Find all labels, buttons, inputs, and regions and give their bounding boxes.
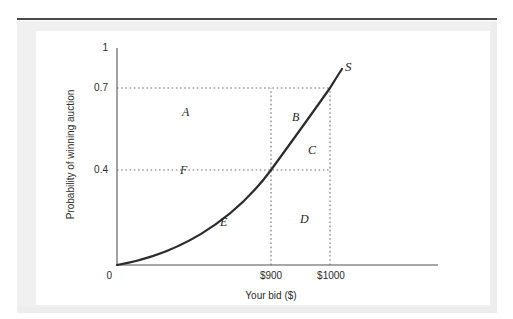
x-axis-title: Your bid ($) xyxy=(191,290,351,301)
region-label-b: B xyxy=(292,110,299,125)
top-rule-divider xyxy=(17,18,497,20)
y-tick-label-0-4: 0.4 xyxy=(82,164,108,175)
region-label-f: F xyxy=(180,163,187,178)
figure-panel: 1 0.7 0.4 0 $900 $1000 Your bid ($) Prob… xyxy=(36,31,490,305)
chart-plot-area: 1 0.7 0.4 0 $900 $1000 Your bid ($) Prob… xyxy=(36,31,490,305)
y-tick-label-1: 1 xyxy=(86,42,108,53)
origin-label-zero: 0 xyxy=(98,270,112,281)
region-label-c: C xyxy=(308,143,316,158)
region-label-e: E xyxy=(220,215,227,230)
probability-curve-s xyxy=(117,69,342,265)
y-tick-label-0-7: 0.7 xyxy=(82,82,108,93)
x-tick-label-1000: $1000 xyxy=(299,270,363,281)
region-label-d: D xyxy=(300,212,309,227)
x-tick-label-900: $900 xyxy=(241,270,301,281)
figure-page: 1 0.7 0.4 0 $900 $1000 Your bid ($) Prob… xyxy=(0,0,513,319)
y-axis-title: Probability of winning auction xyxy=(65,80,76,230)
region-label-a: A xyxy=(182,105,189,120)
curve-label-s: S xyxy=(345,59,352,75)
